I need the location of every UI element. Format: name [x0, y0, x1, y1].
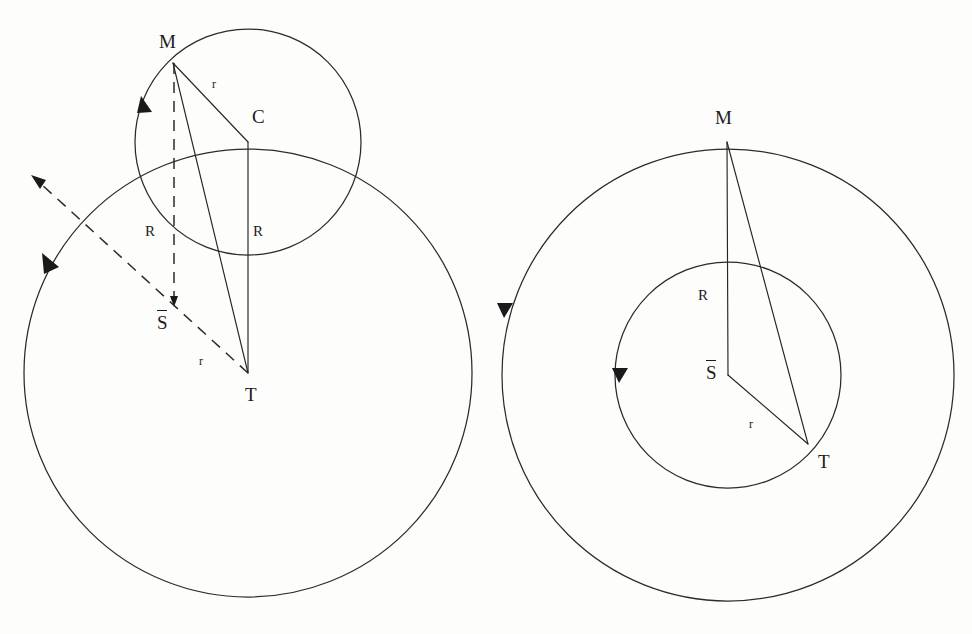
- left-label-C: C: [252, 107, 265, 126]
- left-label-R-left: R: [145, 224, 155, 239]
- segment-M-to-C: [173, 63, 248, 142]
- segment-Sbar-to-T: [728, 375, 808, 444]
- left-label-S-bar: S: [157, 313, 168, 332]
- right-label-T: T: [818, 452, 830, 471]
- right-label-M: M: [715, 108, 732, 127]
- caption-strip: [0, 618, 972, 634]
- figure-canvas: [0, 0, 972, 634]
- figure-root: M C T S r R R r M T S R r: [0, 0, 972, 634]
- segment-Sbar-to-M: [727, 142, 728, 375]
- left-label-R-center: R: [253, 224, 263, 239]
- left-label-T: T: [245, 385, 257, 404]
- dashed-arrow-T-to-upper-left: [40, 183, 248, 373]
- left-label-S-bar-glyph: S: [157, 313, 168, 332]
- right-label-S-bar: S: [706, 363, 717, 382]
- left-label-M: M: [159, 32, 176, 51]
- right-diagram-group: [497, 142, 954, 601]
- left-label-r-diagonal: r: [199, 355, 203, 367]
- right-label-S-bar-glyph: S: [706, 363, 717, 382]
- right-label-r: r: [749, 418, 753, 430]
- left-diagram-group: [24, 29, 472, 597]
- right-label-R: R: [698, 288, 708, 303]
- left-label-r-MC: r: [212, 78, 216, 90]
- arrow-outer-circle-direction: [497, 303, 513, 318]
- segment-M-to-T: [173, 63, 248, 373]
- segment-M-to-T: [727, 142, 808, 444]
- arrow-epicycle-direction: [137, 96, 152, 113]
